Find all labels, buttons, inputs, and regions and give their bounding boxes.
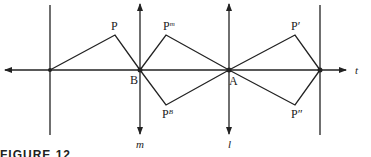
label-A: A [229, 74, 238, 88]
point-dot-B [138, 68, 143, 73]
figure-P [50, 35, 140, 70]
label-P-m: Pm [163, 19, 175, 33]
point-dot-left [48, 68, 52, 72]
reflection-diagram: P Pm PB P′ P″ B A m l t [0, 0, 371, 157]
label-B: B [130, 73, 138, 87]
figure-P-m [140, 35, 229, 70]
label-t: t [355, 64, 359, 76]
figure-P-prime [229, 35, 320, 70]
figure-caption-fragment: FIGURE 12 [0, 148, 71, 157]
label-P: P [111, 19, 118, 33]
label-P-double-prime: P″ [291, 107, 303, 121]
label-P-prime: P′ [291, 19, 301, 33]
figure-P-double-prime [229, 70, 320, 105]
label-m: m [136, 138, 144, 150]
point-dot-right [318, 68, 323, 73]
label-P-B: PB [162, 107, 174, 121]
point-dot-A [227, 68, 232, 73]
label-l: l [228, 138, 231, 150]
figure-P-B [140, 70, 229, 105]
